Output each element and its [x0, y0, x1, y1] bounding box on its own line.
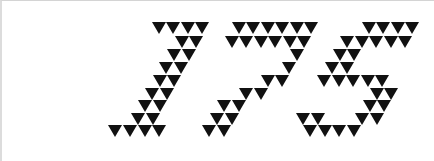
- triangle-icon: [361, 75, 375, 87]
- triangle-icon: [398, 36, 412, 48]
- triangle-icon: [355, 36, 369, 48]
- triangle-icon: [347, 49, 361, 61]
- triangle-icon: [325, 62, 339, 74]
- triangle-icon: [347, 125, 361, 137]
- triangle-icon: [375, 75, 389, 87]
- triangle-icon: [333, 49, 347, 61]
- triangle-icon: [296, 113, 310, 125]
- triangle-icon: [355, 113, 369, 125]
- triangle-icon: [346, 75, 360, 87]
- triangle-icon: [363, 100, 377, 112]
- triangle-icon: [318, 125, 332, 137]
- triangle-icon: [311, 113, 325, 125]
- triangle-icon: [332, 125, 346, 137]
- triangle-icon: [340, 62, 354, 74]
- triangle-icon: [405, 22, 419, 34]
- triangle-icon: [340, 36, 354, 48]
- triangle-icon: [317, 75, 331, 87]
- triangle-icon: [370, 88, 384, 100]
- triangle-icon: [362, 22, 376, 34]
- triangle-icon: [332, 75, 346, 87]
- triangle-icon: [370, 113, 384, 125]
- triangle-icon: [376, 22, 390, 34]
- triangle-icon: [384, 36, 398, 48]
- triangle-icon: [391, 22, 405, 34]
- triangle-icon: [303, 125, 317, 137]
- digit-5-glyph: [2, 1, 434, 161]
- triangle-icon: [384, 88, 398, 100]
- captcha-image: 175: [0, 0, 434, 161]
- triangle-icon: [369, 36, 383, 48]
- triangle-icon: [377, 100, 391, 112]
